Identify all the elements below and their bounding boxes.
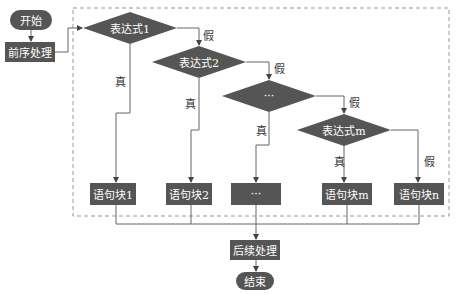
edge-label-true-2: 真 [185, 95, 196, 111]
start-label: 开始 [10, 10, 52, 30]
expr2-label: 表达式2 [169, 54, 229, 70]
post-process-label: 后续处理 [230, 240, 280, 260]
edge-label-false-m: 假 [424, 153, 435, 169]
edge-label-true-3: 真 [256, 122, 267, 138]
edge-label-true-m: 真 [334, 153, 345, 169]
edge-label-false-3: 假 [349, 94, 360, 110]
block2-label: 语句块2 [166, 183, 212, 205]
block1-label: 语句块1 [90, 183, 136, 205]
flowchart-canvas [0, 0, 458, 294]
end-label: 结束 [236, 272, 274, 290]
exprm-label: 表达式m [314, 122, 374, 138]
pre-process-label: 前序处理 [5, 42, 55, 62]
edge-label-true-1: 真 [115, 73, 126, 89]
expr1-label: 表达式1 [100, 20, 160, 36]
blockn-label: 语句块n [394, 183, 444, 205]
edge-label-false-1: 假 [203, 27, 214, 43]
expr-dots-label: ··· [239, 88, 299, 104]
blockm-label: 语句块m [322, 183, 372, 205]
block-dots-label: ··· [231, 183, 281, 205]
edge-label-false-2: 假 [274, 60, 285, 76]
